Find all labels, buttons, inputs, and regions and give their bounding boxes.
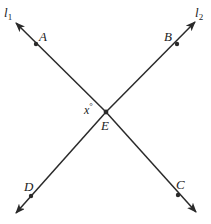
point-c-dot xyxy=(176,193,180,197)
point-e-label: E xyxy=(100,118,109,133)
line-l1-label: l1 xyxy=(4,5,12,22)
point-c-label: C xyxy=(176,177,185,192)
line-l2 xyxy=(106,22,195,112)
line-l1-lower xyxy=(106,112,196,212)
point-a-dot xyxy=(34,42,38,46)
line-l2-label: l2 xyxy=(195,5,203,22)
angle-x-label: x° xyxy=(83,101,93,117)
point-d-label: D xyxy=(23,179,34,194)
line-l1 xyxy=(16,23,106,112)
point-e-dot xyxy=(104,110,109,115)
point-a-label: A xyxy=(38,29,47,44)
point-d-dot xyxy=(29,194,33,198)
point-b-label: B xyxy=(164,29,172,44)
line-l2-lower xyxy=(16,112,106,213)
intersecting-lines-diagram: l1 l2 A B E D C x° xyxy=(0,0,211,224)
point-b-dot xyxy=(175,42,179,46)
